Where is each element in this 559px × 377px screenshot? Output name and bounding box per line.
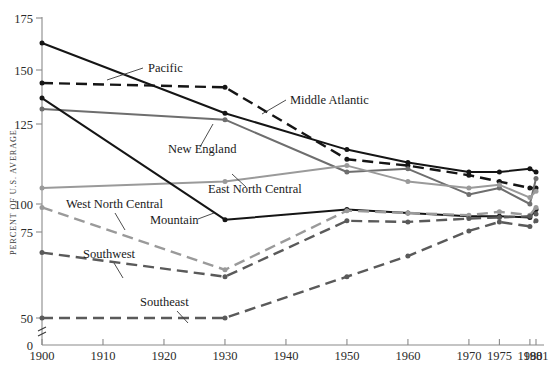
- series-marker-middle-atlantic: [466, 173, 471, 178]
- series-marker-southwest: [344, 218, 349, 223]
- series-marker-new-england: [40, 106, 45, 111]
- series-marker-east-north-central: [40, 186, 45, 191]
- series-marker-southwest: [466, 216, 471, 221]
- series-marker-southwest: [527, 214, 532, 219]
- series-marker-southeast: [527, 224, 532, 229]
- series-marker-southwest: [223, 274, 228, 279]
- series-marker-southeast: [40, 316, 45, 321]
- series-marker-middle-atlantic: [40, 81, 45, 86]
- series-label-pacific: Pacific: [148, 61, 183, 75]
- series-marker-southwest: [497, 215, 502, 220]
- series-marker-east-north-central: [466, 186, 471, 191]
- series-label-new-england: New England: [168, 142, 237, 156]
- series-label-middle-atlantic: Middle Atlantic: [290, 93, 369, 107]
- series-marker-new-england: [527, 202, 532, 207]
- x-axis-tick-label: 1900: [30, 349, 55, 363]
- series-marker-southeast: [344, 274, 349, 279]
- x-axis-tick-label: 1981: [524, 349, 549, 363]
- line-chart: 0507510012515017519001910192019301940195…: [0, 0, 559, 377]
- y-axis-tick-label: 50: [21, 312, 34, 326]
- series-marker-east-north-central: [534, 189, 539, 194]
- x-axis-tick-label: 1960: [395, 349, 420, 363]
- series-marker-pacific: [527, 166, 532, 171]
- series-marker-west-north-central: [344, 208, 349, 213]
- series-marker-mountain: [223, 217, 228, 222]
- x-axis-tick-label: 1975: [487, 349, 512, 363]
- series-marker-east-north-central: [344, 163, 349, 168]
- y-axis-tick-label: 150: [14, 64, 33, 78]
- x-axis-tick-label: 1970: [456, 349, 481, 363]
- series-label-southwest: Southwest: [83, 247, 136, 261]
- series-marker-pacific: [40, 41, 45, 46]
- y-axis-label: PERCENT OF U.S. AVERAGE: [9, 129, 18, 255]
- series-marker-pacific: [534, 170, 539, 175]
- series-label-mountain: Mountain: [150, 213, 199, 227]
- series-marker-pacific: [497, 170, 502, 175]
- series-lines: [40, 41, 539, 321]
- series-marker-southwest: [534, 212, 539, 217]
- series-marker-west-north-central: [40, 205, 45, 210]
- y-axis-tick-label: 75: [21, 226, 34, 240]
- series-marker-southeast: [534, 218, 539, 223]
- series-label-east-north-central: East North Central: [208, 182, 302, 196]
- series-marker-southeast: [223, 316, 228, 321]
- series-marker-mountain: [40, 96, 45, 101]
- x-axis-tick-label: 1910: [90, 349, 115, 363]
- series-marker-pacific: [223, 111, 228, 116]
- series-marker-southwest: [40, 250, 45, 255]
- series-marker-west-north-central: [405, 211, 410, 216]
- series-marker-southwest: [405, 219, 410, 224]
- series-marker-new-england: [344, 170, 349, 175]
- leader-line-middle-atlantic: [262, 100, 286, 114]
- series-marker-new-england: [223, 117, 228, 122]
- series-marker-new-england: [534, 176, 539, 181]
- y-axis-tick-label: 175: [14, 12, 33, 26]
- series-marker-southeast: [405, 254, 410, 259]
- x-axis-tick-label: 1930: [212, 349, 237, 363]
- series-marker-new-england: [466, 192, 471, 197]
- series-label-west-north-central: West North Central: [66, 197, 163, 211]
- series-line-southeast: [42, 221, 536, 318]
- series-marker-middle-atlantic: [223, 85, 228, 90]
- x-axis-tick-label: 1940: [273, 349, 298, 363]
- series-marker-west-north-central: [534, 205, 539, 210]
- series-marker-east-north-central: [405, 179, 410, 184]
- series-marker-east-north-central: [527, 195, 532, 200]
- series-line-pacific: [42, 43, 536, 172]
- series-marker-new-england: [405, 166, 410, 171]
- series-marker-southeast: [497, 219, 502, 224]
- series-marker-west-north-central: [497, 209, 502, 214]
- series-marker-pacific: [344, 147, 349, 152]
- series-marker-west-north-central: [223, 267, 228, 272]
- chart-canvas: 0507510012515017519001910192019301940195…: [0, 0, 559, 377]
- leader-line-mountain: [198, 213, 214, 219]
- series-label-southeast: Southeast: [140, 295, 189, 309]
- series-marker-southeast: [466, 228, 471, 233]
- leader-line-southwest: [114, 263, 123, 278]
- leader-line-west-north-central: [115, 213, 125, 230]
- series-marker-east-north-central: [497, 182, 502, 187]
- x-axis-tick-label: 1950: [334, 349, 359, 363]
- x-axis-tick-label: 1920: [151, 349, 176, 363]
- series-marker-middle-atlantic: [344, 157, 349, 162]
- series-marker-middle-atlantic: [527, 186, 532, 191]
- series-annotations: PacificMiddle AtlanticNew EnglandEast No…: [66, 61, 369, 323]
